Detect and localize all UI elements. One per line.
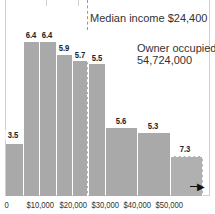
value-label: 5.6 (113, 116, 128, 126)
value-label: 6.4 (39, 30, 54, 40)
bar-7 (138, 133, 170, 196)
median-line-top (87, 0, 88, 30)
bar-1 (24, 42, 39, 196)
value-label: 5.7 (72, 50, 87, 60)
group-annotation-line1: Owner occupied (137, 42, 215, 54)
group-annotation-line2: 54,724,000 (137, 54, 192, 66)
bar-0 (6, 144, 23, 196)
value-label: 5.3 (145, 121, 160, 131)
tick-mark (78, 0, 79, 6)
right-arrow-icon: ▶ (197, 181, 205, 192)
bar-2 (40, 42, 56, 196)
tick-mark (46, 0, 47, 6)
value-label: 5.5 (89, 53, 104, 63)
x-tick-label: $50,000 (155, 200, 183, 210)
x-tick-label: $40,000 (123, 200, 151, 210)
x-tick-label: $10,000 (26, 200, 54, 210)
bar-4 (73, 61, 88, 196)
value-label: 7.3 (177, 144, 192, 154)
median-annotation: Median income $24,400 (90, 12, 207, 24)
bar-5 (89, 64, 105, 196)
x-tick-label: 0 (4, 200, 8, 210)
value-label: 3.5 (5, 130, 20, 140)
value-label: 5.9 (56, 43, 71, 53)
value-label: 6.4 (23, 30, 38, 40)
bar-6 (106, 128, 137, 196)
x-tick-label: $20,000 (59, 200, 87, 210)
x-tick-label: $30,000 (91, 200, 119, 210)
bar-3 (57, 55, 72, 196)
